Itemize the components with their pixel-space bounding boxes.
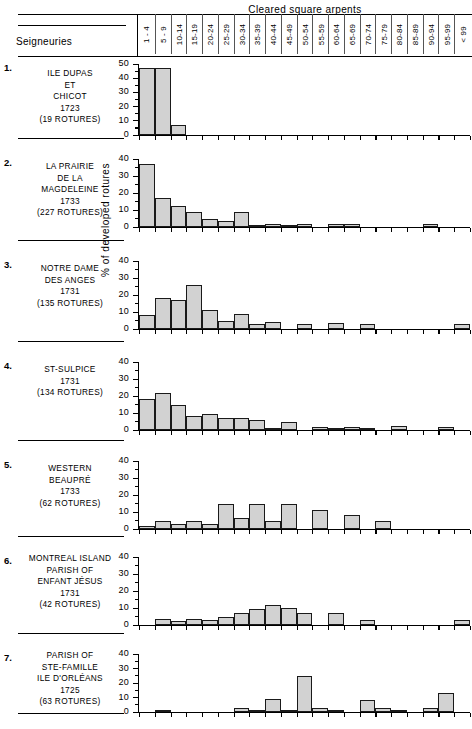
bar xyxy=(344,515,360,529)
y-tick-minor xyxy=(135,520,139,521)
bar xyxy=(249,710,265,712)
bar xyxy=(186,521,202,530)
x-tick xyxy=(171,713,172,717)
y-tick-label: 40 xyxy=(113,72,129,82)
x-tick xyxy=(297,431,298,435)
x-tick xyxy=(360,228,361,232)
y-tick-major xyxy=(133,295,139,296)
x-tick xyxy=(249,431,250,435)
bar xyxy=(328,323,344,329)
x-tick xyxy=(423,431,424,435)
x-tick xyxy=(438,330,439,334)
x-tick xyxy=(391,431,392,435)
x-tick xyxy=(344,330,345,334)
x-tick xyxy=(186,330,187,334)
y-tick-label: 20 xyxy=(113,585,129,595)
bar xyxy=(312,427,328,430)
x-tick xyxy=(375,136,376,140)
bar xyxy=(344,427,360,430)
panel-title-line: ENFANT JÉSUS xyxy=(14,576,126,588)
y-tick-label: 10 xyxy=(113,692,129,702)
bar xyxy=(360,620,376,625)
y-tick-label: 30 xyxy=(113,170,129,180)
x-tick xyxy=(139,136,140,140)
column-header-8: 35-39 xyxy=(249,14,266,54)
x-tick xyxy=(265,136,266,140)
panel-title-line: ET xyxy=(14,80,126,92)
y-tick-major xyxy=(133,278,139,279)
x-tick xyxy=(312,626,313,630)
x-tick xyxy=(297,228,298,232)
y-tick-label: 20 xyxy=(113,187,129,197)
panel-3: 3.NOTRE DAMEDES ANGES1731(135 ROTURES)01… xyxy=(0,257,472,357)
x-tick xyxy=(328,626,329,630)
bar xyxy=(360,700,376,712)
panel-title-line: (227 ROTURES) xyxy=(14,207,126,219)
bar xyxy=(186,212,202,227)
x-tick xyxy=(281,626,282,630)
y-tick-major xyxy=(133,654,139,655)
column-header-5: 20-24 xyxy=(202,14,219,54)
column-header-label: 75-79 xyxy=(380,23,389,44)
x-tick xyxy=(139,713,140,717)
x-tick xyxy=(454,530,455,534)
x-tick xyxy=(297,136,298,140)
panel-title-line: DE LA xyxy=(14,173,126,185)
y-tick-label: 40 xyxy=(113,153,129,163)
x-tick xyxy=(297,626,298,630)
x-tick xyxy=(171,431,172,435)
x-tick xyxy=(218,713,219,717)
bar xyxy=(375,521,391,530)
y-tick-label: 20 xyxy=(113,289,129,299)
x-tick xyxy=(171,330,172,334)
bar xyxy=(186,619,202,625)
bar xyxy=(218,221,234,227)
column-header-label: 20-24 xyxy=(206,23,215,44)
panel-title-line: BEAUPRÉ xyxy=(14,475,126,487)
x-tick xyxy=(139,431,140,435)
bar xyxy=(281,710,297,712)
x-tick xyxy=(375,228,376,232)
x-tick xyxy=(407,431,408,435)
y-tick-minor xyxy=(135,387,139,388)
x-tick xyxy=(344,530,345,534)
column-header-12: 55-59 xyxy=(312,14,329,54)
panel-title-line: 1731 xyxy=(14,286,126,298)
y-tick-label: 40 xyxy=(113,356,129,366)
x-tick xyxy=(454,431,455,435)
y-tick-minor xyxy=(135,269,139,270)
y-tick-label: 30 xyxy=(113,663,129,673)
bar xyxy=(155,710,171,712)
x-tick xyxy=(155,626,156,630)
panel-7: 7.PARISH OFSTE-FAMILLEILE D'ORLÉANS1725(… xyxy=(0,650,472,729)
panel-separator xyxy=(18,633,124,634)
panel-title-line: 1733 xyxy=(14,196,126,208)
bar xyxy=(297,224,313,227)
x-tick xyxy=(423,626,424,630)
bar xyxy=(297,324,313,329)
y-tick-major xyxy=(133,261,139,262)
y-tick-minor xyxy=(135,370,139,371)
x-tick xyxy=(438,530,439,534)
bar xyxy=(265,428,281,430)
panel-title-line: 1723 xyxy=(14,103,126,115)
x-tick xyxy=(186,431,187,435)
bar xyxy=(297,676,313,712)
bar xyxy=(186,285,202,329)
column-header-6: 25-29 xyxy=(218,14,235,54)
x-tick xyxy=(470,713,471,717)
panel-index: 4. xyxy=(4,360,12,371)
panel-index: 3. xyxy=(4,259,12,270)
column-header-label: 15-19 xyxy=(191,23,200,44)
seigneuries-header-label: Seigneuries xyxy=(16,36,72,47)
x-tick xyxy=(407,136,408,140)
bar xyxy=(155,393,171,430)
y-tick-minor xyxy=(135,675,139,676)
panel-index: 2. xyxy=(4,157,12,168)
x-tick xyxy=(438,431,439,435)
x-tick xyxy=(265,431,266,435)
bar xyxy=(281,608,297,625)
y-tick-label: 40 xyxy=(113,255,129,265)
x-tick xyxy=(312,530,313,534)
column-header-label: 1 - 4 xyxy=(142,25,151,42)
